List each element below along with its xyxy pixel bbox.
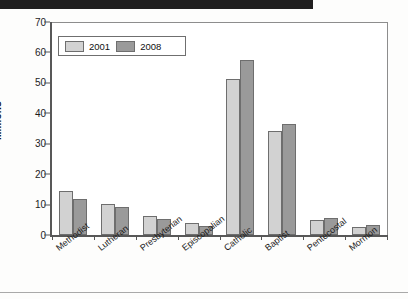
x-tick-mark bbox=[387, 235, 388, 240]
legend-label-2008: 2008 bbox=[140, 41, 161, 52]
legend-swatch-2008-icon bbox=[116, 41, 135, 52]
legend-item-2008: 2008 bbox=[116, 41, 161, 52]
y-axis-tick-labels: 010203040506070 bbox=[0, 10, 46, 237]
y-tick-label: 10 bbox=[4, 200, 46, 210]
x-tick-mark bbox=[303, 235, 304, 240]
y-tick-label: 20 bbox=[4, 169, 46, 179]
x-tick-mark bbox=[94, 235, 95, 240]
y-tick-label: 70 bbox=[4, 17, 46, 27]
x-tick-mark bbox=[345, 235, 346, 240]
y-tick-label: 60 bbox=[4, 47, 46, 57]
x-tick-mark bbox=[136, 235, 137, 240]
legend-label-2001: 2001 bbox=[89, 41, 110, 52]
y-tick-label: 30 bbox=[4, 139, 46, 149]
legend-item-2001: 2001 bbox=[65, 41, 110, 52]
bar-group bbox=[220, 22, 262, 235]
bar-chart: Millions 010203040506070 MethodistLuther… bbox=[0, 10, 408, 292]
bar-2008 bbox=[240, 60, 254, 235]
bar-2008 bbox=[282, 124, 296, 235]
chart-legend: 2001 2008 bbox=[58, 36, 186, 56]
bar-2001 bbox=[226, 79, 240, 235]
legend-swatch-2001-icon bbox=[65, 41, 84, 52]
top-black-bar bbox=[0, 0, 313, 9]
bar-group bbox=[261, 22, 303, 235]
bar-2001 bbox=[59, 191, 73, 235]
x-tick-mark bbox=[178, 235, 179, 240]
x-tick-mark bbox=[261, 235, 262, 240]
x-tick-mark bbox=[52, 235, 53, 240]
x-tick-mark bbox=[220, 235, 221, 240]
y-tick-label: 40 bbox=[4, 108, 46, 118]
bar-group bbox=[345, 22, 387, 235]
x-axis-tick-labels: MethodistLutheranPresbyterianEpiscopalia… bbox=[0, 239, 408, 294]
y-tick-label: 50 bbox=[4, 78, 46, 88]
bar-group bbox=[303, 22, 345, 235]
bottom-divider bbox=[0, 292, 408, 293]
chart-page: Millions 010203040506070 MethodistLuther… bbox=[0, 0, 408, 299]
bar-2001 bbox=[268, 131, 282, 235]
